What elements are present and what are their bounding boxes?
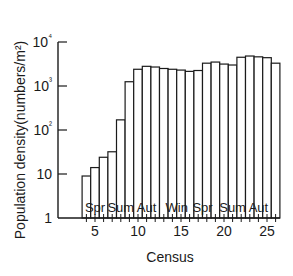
x-tick-label: 25 [259, 223, 275, 239]
season-label: Spr [85, 200, 106, 215]
season-label: Sum [219, 200, 246, 215]
x-tick-label: 20 [216, 223, 232, 239]
bar [237, 57, 246, 218]
x-axis-label: Census [146, 249, 193, 265]
bar-chart: 11010²10³10⁴510152025SprSumAutWinSprSumA… [0, 0, 293, 276]
bar [246, 56, 255, 218]
bar [263, 58, 272, 218]
bar [220, 64, 229, 218]
bar [177, 70, 186, 218]
bar [185, 71, 194, 218]
bar [194, 71, 203, 218]
season-label: Spr [192, 200, 213, 215]
y-tick-label: 1 [44, 210, 52, 226]
bar [160, 68, 169, 218]
bar [228, 65, 237, 218]
bar [211, 62, 220, 218]
x-tick-label: 5 [91, 223, 99, 239]
y-tick-label: 10² [33, 120, 52, 138]
bar [271, 63, 280, 218]
y-tick-label: 10⁴ [33, 32, 53, 50]
season-label: Sum [107, 200, 134, 215]
bar [134, 69, 143, 218]
x-tick-label: 10 [130, 223, 146, 239]
season-label: Aut [249, 200, 269, 215]
bar [168, 69, 177, 218]
bar [142, 66, 151, 218]
y-tick-label: 10³ [33, 76, 52, 94]
bar [125, 82, 134, 218]
bar [151, 67, 160, 218]
x-tick-label: 15 [173, 223, 189, 239]
y-tick-label: 10 [36, 166, 52, 182]
bar [203, 63, 212, 218]
season-label: Aut [137, 200, 157, 215]
bar [254, 57, 263, 218]
season-label: Win [166, 200, 188, 215]
